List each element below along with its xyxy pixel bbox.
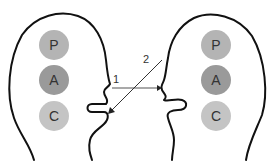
right-ego-adult: A [201,65,231,95]
arrow-1: 1 [112,73,162,91]
right-adult-label: A [211,72,221,88]
left-parent-label: P [49,37,58,53]
left-adult-label: A [49,72,59,88]
arrow-2-label: 2 [143,53,149,65]
right-parent-label: P [211,37,220,53]
transaction-diagram: P A C P A C 1 2 [0,0,272,167]
arrow-1-label: 1 [113,73,119,85]
left-ego-parent: P [39,30,69,60]
right-ego-child: C [201,101,231,131]
left-ego-child: C [39,101,69,131]
left-child-label: C [49,108,59,124]
left-ego-adult: A [39,65,69,95]
right-ego-parent: P [201,30,231,60]
right-child-label: C [211,108,221,124]
